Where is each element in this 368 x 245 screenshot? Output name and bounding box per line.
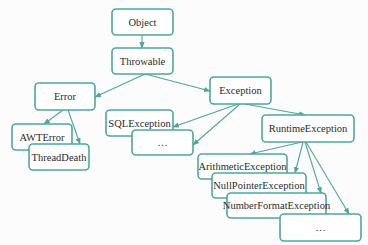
node-error: Error bbox=[35, 83, 95, 110]
node-label: SQLException bbox=[108, 118, 171, 129]
edge-runtimeexception-to-nullpointerexception bbox=[295, 142, 303, 173]
node-label: … bbox=[315, 222, 326, 233]
node-label: Exception bbox=[219, 85, 262, 96]
node-label: NullPointerException bbox=[213, 180, 305, 191]
node-throwable: Throwable bbox=[112, 48, 173, 74]
edge-runtimeexception-to-numberformatexception bbox=[305, 142, 321, 193]
node-label: AWTError bbox=[19, 132, 65, 143]
edge-error-to-awterror bbox=[44, 110, 63, 124]
node-label: Throwable bbox=[120, 56, 166, 67]
edge-throwable-to-error bbox=[95, 74, 145, 97]
node-label: Object bbox=[129, 17, 157, 28]
edge-exception-to-exception-more bbox=[193, 104, 240, 145]
node-threaddeath: ThreadDeath bbox=[29, 144, 89, 170]
edge-exception-to-sqlexception bbox=[173, 104, 238, 127]
node-label: NumberFormatException bbox=[223, 200, 331, 211]
edge-runtimeexception-to-arithmeticexception bbox=[250, 142, 302, 154]
node-label: RuntimeException bbox=[269, 123, 348, 134]
node-runtime-more: … bbox=[280, 214, 361, 241]
class-hierarchy-diagram: ObjectThrowableErrorExceptionAWTErrorThr… bbox=[0, 0, 368, 245]
node-label: … bbox=[157, 137, 168, 148]
node-runtimeexception: RuntimeException bbox=[262, 115, 354, 142]
node-exception-more: … bbox=[132, 130, 193, 155]
node-exception: Exception bbox=[210, 77, 271, 104]
node-object: Object bbox=[112, 9, 173, 35]
node-label: Error bbox=[54, 91, 77, 102]
edge-throwable-to-exception bbox=[145, 74, 210, 91]
node-label: ArithmeticException bbox=[198, 161, 287, 172]
edge-exception-to-runtimeexception bbox=[245, 104, 305, 115]
node-label: ThreadDeath bbox=[32, 152, 88, 163]
nodes: ObjectThrowableErrorExceptionAWTErrorThr… bbox=[12, 9, 361, 241]
